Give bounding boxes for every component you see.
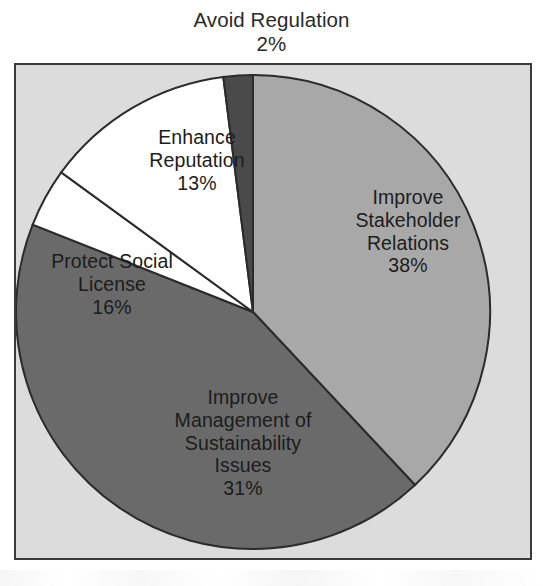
slice-label-enhance-reputation: Enhance Reputation 13% xyxy=(112,126,282,194)
slice-label-line: Improve xyxy=(128,386,358,409)
slice-label-line: Enhance xyxy=(112,126,282,149)
slice-label-value: 31% xyxy=(128,477,358,500)
slice-label-line: License xyxy=(12,273,212,296)
slice-label-line: Reputation xyxy=(112,149,282,172)
pie-chart-figure: Avoid Regulation 2% Improve Stakeho xyxy=(0,0,543,586)
slice-label-line: Relations xyxy=(318,232,498,255)
slice-label-protect-social-license: Protect Social License 16% xyxy=(12,250,212,318)
slice-label-line: Management of xyxy=(128,409,358,432)
slice-label-line: Issues xyxy=(128,454,358,477)
scan-artifact xyxy=(0,570,543,586)
slice-label-line: Protect Social xyxy=(12,250,212,273)
slice-label-value: 13% xyxy=(112,172,282,195)
slice-label-line: Sustainability xyxy=(128,432,358,455)
slice-label-improve-stakeholder-relations: Improve Stakeholder Relations 38% xyxy=(318,186,498,277)
slice-label-improve-management-sustainability: Improve Management of Sustainability Iss… xyxy=(128,386,358,500)
slice-label-value: 16% xyxy=(12,296,212,319)
slice-label-line: Improve xyxy=(318,186,498,209)
slice-label-value: 38% xyxy=(318,254,498,277)
slice-label-line: Stakeholder xyxy=(318,209,498,232)
